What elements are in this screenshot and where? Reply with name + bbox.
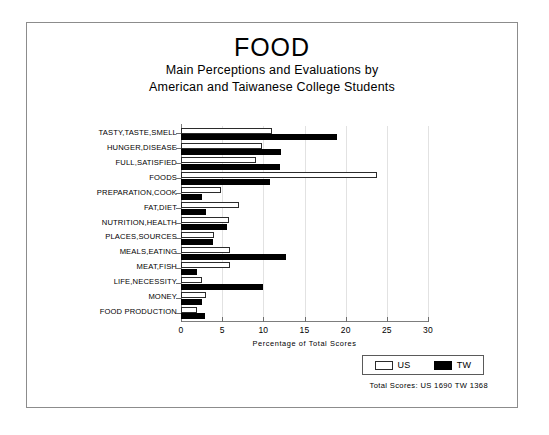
x-axis-tick-label: 10 xyxy=(258,325,268,335)
bar-us[interactable] xyxy=(181,202,239,208)
bar-tw[interactable] xyxy=(181,269,197,275)
bar-group xyxy=(181,275,428,290)
gridline xyxy=(428,126,429,321)
bar-group xyxy=(181,171,428,186)
legend-label-tw: TW xyxy=(457,360,472,370)
bar-group xyxy=(181,186,428,201)
bar-group xyxy=(181,245,428,260)
category-label: PLACES,SOURCES xyxy=(44,230,177,245)
legend-item-us[interactable]: US xyxy=(375,360,411,370)
category-label: PREPARATION,COOK xyxy=(44,186,177,201)
bar-us[interactable] xyxy=(181,172,377,178)
bar-us[interactable] xyxy=(181,157,256,163)
category-label: MONEY xyxy=(44,290,177,305)
plot-area xyxy=(181,126,428,320)
bar-tw[interactable] xyxy=(181,239,213,245)
tw-bar-swatch-icon xyxy=(434,361,452,370)
x-axis-tick xyxy=(428,317,429,322)
category-label: TASTY,TASTE,SMELL xyxy=(44,126,177,141)
bar-us[interactable] xyxy=(181,128,272,134)
bar-group xyxy=(181,260,428,275)
category-axis-labels: TASTY,TASTE,SMELLHUNGER,DISEASEFULL,SATI… xyxy=(44,126,177,320)
bar-tw[interactable] xyxy=(181,299,202,305)
bar-tw[interactable] xyxy=(181,149,281,155)
bar-us[interactable] xyxy=(181,187,221,193)
category-label: NUTRITION,HEALTH xyxy=(44,216,177,231)
category-label: FAT,DIET xyxy=(44,201,177,216)
subtitle-line-1: Main Perceptions and Evaluations by xyxy=(26,63,518,78)
bar-group xyxy=(181,216,428,231)
bar-us[interactable] xyxy=(181,232,214,238)
bar-tw[interactable] xyxy=(181,254,286,260)
x-axis-tick-label: 25 xyxy=(382,325,392,335)
bar-us[interactable] xyxy=(181,277,202,283)
bar-group xyxy=(181,156,428,171)
category-label: FULL,SATISFIED xyxy=(44,156,177,171)
category-label: HUNGER,DISEASE xyxy=(44,141,177,156)
us-bar-swatch-icon xyxy=(375,361,393,370)
bar-group xyxy=(181,290,428,305)
bar-group xyxy=(181,126,428,141)
bar-tw[interactable] xyxy=(181,284,263,290)
category-label: FOODS xyxy=(44,171,177,186)
bar-group xyxy=(181,305,428,320)
category-label: FOOD PRODUCTION xyxy=(44,305,177,320)
totals-caption: Total Scores: US 1690 TW 1368 xyxy=(288,381,488,390)
bar-tw[interactable] xyxy=(181,179,270,185)
title-block: FOOD Main Perceptions and Evaluations by… xyxy=(26,34,518,95)
legend-item-tw[interactable]: TW xyxy=(434,360,472,370)
page-title: FOOD xyxy=(26,34,518,61)
x-axis-tick-label: 0 xyxy=(179,325,184,335)
x-axis-tick-label: 15 xyxy=(300,325,310,335)
bar-tw[interactable] xyxy=(181,313,205,319)
bar-tw[interactable] xyxy=(181,164,280,170)
chart-legend[interactable]: US TW xyxy=(362,355,484,375)
bar-tw[interactable] xyxy=(181,209,206,215)
subtitle-line-2: American and Taiwanese College Students xyxy=(26,80,518,95)
x-axis-title: Percentage of Total Scores xyxy=(181,339,428,348)
category-label: MEALS,EATING xyxy=(44,245,177,260)
bar-tw[interactable] xyxy=(181,134,337,140)
bar-us[interactable] xyxy=(181,292,206,298)
x-axis-tick-label: 5 xyxy=(220,325,225,335)
x-axis-tick-label: 30 xyxy=(423,325,433,335)
bar-us[interactable] xyxy=(181,217,229,223)
bar-tw[interactable] xyxy=(181,224,227,230)
category-label: LIFE,NECESSITY xyxy=(44,275,177,290)
bar-us[interactable] xyxy=(181,143,262,149)
bar-us[interactable] xyxy=(181,262,230,268)
legend-label-us: US xyxy=(398,360,411,370)
bar-tw[interactable] xyxy=(181,194,202,200)
bar-us[interactable] xyxy=(181,247,230,253)
chart-page: FOOD Main Perceptions and Evaluations by… xyxy=(0,0,549,435)
bar-group xyxy=(181,141,428,156)
category-label: MEAT,FISH xyxy=(44,260,177,275)
x-axis-tick-label: 20 xyxy=(341,325,351,335)
bar-group xyxy=(181,201,428,216)
bar-group xyxy=(181,230,428,245)
bar-us[interactable] xyxy=(181,307,197,313)
